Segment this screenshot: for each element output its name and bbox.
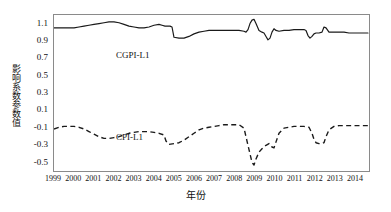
x-tick-label: 2008 bbox=[226, 174, 242, 183]
x-tick-label: 2007 bbox=[206, 174, 222, 183]
x-tick-label: 2001 bbox=[85, 174, 101, 183]
x-axis-title: 年份 bbox=[0, 190, 391, 201]
y-axis-tick-labels: 1.10.90.70.50.30.1-0.1-0.3-0.5 bbox=[22, 14, 51, 172]
x-tick-label: 2009 bbox=[246, 174, 262, 183]
plot-area: CGPI-L1 CPI-L1 bbox=[53, 14, 370, 172]
x-tick-label: 2000 bbox=[65, 174, 81, 183]
x-axis-tick-labels: 1999200020012002200320042005200620072008… bbox=[53, 174, 370, 186]
chart-figure: 影响系数参数值 1.10.90.70.50.30.1-0.1-0.3-0.5 C… bbox=[0, 0, 391, 212]
series-label-cpi-l1: CPI-L1 bbox=[116, 133, 143, 142]
series-line-cgpi-l1 bbox=[54, 19, 368, 40]
series-label-cgpi-l1: CGPI-L1 bbox=[116, 51, 150, 60]
x-tick-label: 2013 bbox=[327, 174, 343, 183]
y-tick-label: 0.7 bbox=[37, 53, 48, 62]
x-tick-label: 2004 bbox=[146, 174, 162, 183]
y-tick-label: 0.1 bbox=[37, 105, 48, 114]
y-tick-label: -0.3 bbox=[34, 140, 48, 149]
y-tick-label: -0.1 bbox=[34, 122, 48, 131]
y-tick-label: 0.3 bbox=[37, 88, 48, 97]
series-line-cpi-l1 bbox=[54, 125, 368, 165]
x-tick-label: 2014 bbox=[347, 174, 363, 183]
x-tick-label: 2011 bbox=[287, 174, 303, 183]
x-tick-label: 2003 bbox=[126, 174, 142, 183]
y-tick-label: -0.5 bbox=[34, 157, 48, 166]
x-tick-label: 2002 bbox=[105, 174, 121, 183]
x-tick-label: 2005 bbox=[166, 174, 182, 183]
x-tick-label: 1999 bbox=[45, 174, 61, 183]
x-tick-label: 2010 bbox=[266, 174, 282, 183]
x-tick-label: 2006 bbox=[186, 174, 202, 183]
y-tick-label: 0.9 bbox=[37, 36, 48, 45]
x-tick-label: 2012 bbox=[307, 174, 323, 183]
plot-svg bbox=[54, 15, 369, 171]
y-tick-label: 0.5 bbox=[37, 70, 48, 79]
y-tick-label: 1.1 bbox=[37, 18, 48, 27]
